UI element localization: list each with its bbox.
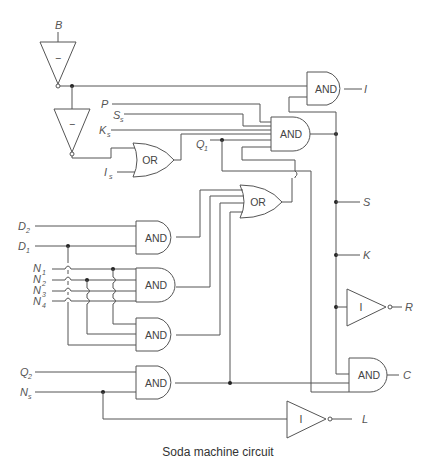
- and-gate-i: AND: [307, 72, 340, 105]
- output-l-label: L: [362, 413, 368, 425]
- input-b-label: B: [55, 19, 62, 31]
- svg-text:AND: AND: [315, 83, 338, 95]
- svg-text:−: −: [69, 118, 75, 130]
- output-s-label: S: [363, 196, 371, 208]
- svg-text:s: s: [120, 116, 124, 123]
- soda-machine-circuit: − B − I s OR P S s K s Q 1: [0, 0, 436, 470]
- svg-text:1: 1: [42, 269, 46, 276]
- svg-text:AND: AND: [145, 329, 168, 341]
- svg-text:s: s: [109, 173, 113, 180]
- input-is-label: I: [104, 166, 107, 178]
- output-c-label: C: [403, 369, 411, 381]
- svg-text:1: 1: [26, 247, 30, 254]
- svg-text:4: 4: [42, 302, 46, 309]
- and-gate-n: AND: [136, 268, 175, 302]
- svg-text:OR: OR: [142, 154, 158, 166]
- svg-text:2: 2: [25, 227, 30, 234]
- svg-text:2: 2: [41, 280, 46, 287]
- or-gate-top: OR: [133, 143, 174, 177]
- input-p-label: P: [101, 98, 109, 110]
- output-k-label: K: [363, 249, 371, 261]
- svg-text:1: 1: [204, 145, 208, 152]
- svg-text:AND: AND: [145, 232, 168, 244]
- svg-text:s: s: [107, 131, 111, 138]
- figure-caption: Soda machine circuit: [0, 445, 436, 459]
- and-gate-d: AND: [136, 221, 171, 254]
- output-i-label: I: [364, 83, 367, 95]
- svg-text:s: s: [28, 393, 32, 400]
- and-gate-main: AND: [271, 117, 310, 151]
- svg-text:AND: AND: [358, 369, 381, 381]
- svg-text:I: I: [360, 301, 363, 313]
- input-d1-label: D: [18, 240, 26, 252]
- or-gate-mid: OR: [240, 185, 282, 218]
- svg-text:OR: OR: [250, 196, 266, 208]
- and-gate-n2: AND: [136, 318, 171, 351]
- inverter-b2: −: [54, 109, 90, 156]
- input-n4-label: N: [33, 295, 41, 307]
- svg-text:I: I: [300, 413, 303, 425]
- and-gate-c: AND: [349, 358, 387, 392]
- inverter-r: I: [347, 289, 392, 326]
- svg-text:3: 3: [42, 291, 46, 298]
- inverter-b: −: [40, 32, 76, 88]
- and-gate-q2: AND: [136, 366, 171, 399]
- svg-text:AND: AND: [280, 128, 303, 140]
- inverter-l: I: [287, 401, 332, 438]
- svg-text:2: 2: [27, 373, 32, 380]
- svg-text:−: −: [55, 52, 61, 64]
- svg-text:AND: AND: [145, 279, 168, 291]
- output-r-label: R: [405, 301, 413, 313]
- input-d2-label: D: [18, 220, 26, 232]
- input-ks-label: K: [99, 124, 107, 136]
- svg-text:AND: AND: [145, 377, 168, 389]
- input-ns-label: N: [20, 386, 28, 398]
